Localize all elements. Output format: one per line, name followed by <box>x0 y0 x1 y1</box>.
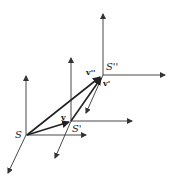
reference-frames-diagram: S S' S'' v v' v'' <box>0 0 170 182</box>
frame-s-z-axis <box>8 135 26 173</box>
label-s: S <box>15 130 22 140</box>
label-v: v <box>61 113 66 121</box>
label-v-double-prime: v'' <box>86 68 96 76</box>
label-s-double-prime: S'' <box>106 62 118 72</box>
vector-v-prime <box>71 78 101 121</box>
label-v-prime: v' <box>103 79 110 87</box>
frame-s-prime-z-axis <box>55 121 71 158</box>
vector-v <box>27 122 69 135</box>
frame-s-double-prime-axes <box>86 14 165 113</box>
velocity-vectors <box>27 77 101 135</box>
diagram-svg <box>0 0 170 182</box>
label-s-prime: S' <box>72 124 82 134</box>
